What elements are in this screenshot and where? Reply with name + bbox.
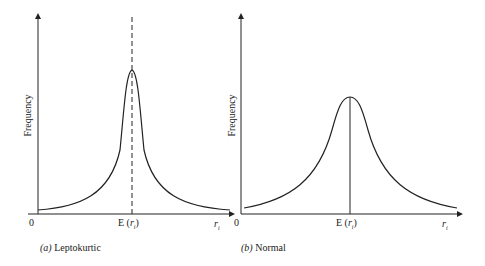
panel-b-x-axis-label: ri xyxy=(442,218,448,231)
panel-a-mean-label: E (ri) xyxy=(118,217,139,230)
panel-a-caption: (a) Leptokurtic xyxy=(40,242,101,253)
panel-a-axes xyxy=(28,16,232,214)
panel-b-caption: (b) Normal xyxy=(241,242,286,253)
panel-a-y-axis-label: Frequency xyxy=(22,91,33,141)
diagram-canvas xyxy=(0,0,485,266)
panel-a-leptokurtic-curve xyxy=(38,70,230,210)
panel-b-y-axis-label: Frequency xyxy=(226,91,237,141)
panel-b-mean-label: E (ri) xyxy=(336,217,357,230)
panel-b-origin-label: 0 xyxy=(234,217,239,228)
panel-a-x-axis-label: ri xyxy=(214,218,220,231)
panel-a-origin-label: 0 xyxy=(29,217,34,228)
